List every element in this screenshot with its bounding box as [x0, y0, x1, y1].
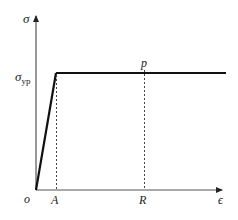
yield-stress-subscript: yp	[21, 76, 31, 86]
point-p-label: p	[140, 56, 147, 70]
origin-label: o	[24, 192, 30, 206]
point-r-label: R	[138, 193, 147, 207]
stress-strain-diagram: σ σyp o A R p ϵ	[0, 0, 238, 220]
y-axis-label: σ	[23, 11, 30, 26]
x-axis-label: ϵ	[218, 193, 224, 207]
elastic-segment	[36, 73, 56, 190]
point-a-label: A	[50, 193, 59, 207]
yield-stress-label: σyp	[15, 69, 31, 86]
